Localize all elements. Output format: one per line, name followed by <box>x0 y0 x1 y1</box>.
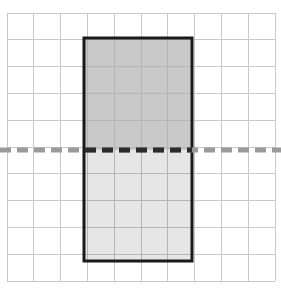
figure-canvas: Rectangle reflected across a dashed hori… <box>0 0 281 289</box>
geometry-figure: Rectangle reflected across a dashed hori… <box>0 0 281 289</box>
rectangle-upper-half-fill <box>84 38 192 150</box>
rectangle-lower-half-fill <box>84 150 192 261</box>
